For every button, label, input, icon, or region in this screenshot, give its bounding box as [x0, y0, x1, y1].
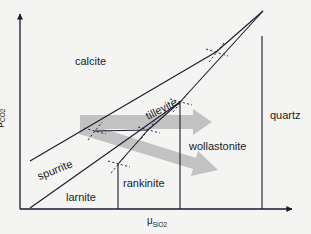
field-label-quartz: quartz	[270, 110, 301, 121]
field-label-larnite: larnite	[66, 192, 96, 203]
boundary-wollastonite-tilleyite	[180, 11, 263, 102]
dash-ip2-b	[108, 161, 130, 167]
x-axis-label-sub: SiO	[153, 221, 164, 228]
y-axis-label-sub2: 2	[0, 109, 6, 113]
field-label-rankinite: rankinite	[123, 178, 165, 189]
y-axis-label: μCO2	[0, 109, 7, 128]
phase-diagram-figure: calcite tilleyite spurrite larnite ranki…	[0, 0, 311, 234]
x-axis-label-sub2: 2	[164, 221, 168, 228]
x-axis-label: μSiO2	[147, 216, 167, 229]
y-axis-label-mu: μ	[0, 122, 4, 128]
field-label-calcite: calcite	[75, 56, 106, 67]
y-axis-label-sub: CO	[0, 112, 6, 122]
dash-ip5-a	[209, 43, 224, 62]
field-label-wollastonite: wollastonite	[189, 141, 246, 152]
boundary-calcite-quartz	[216, 11, 263, 52]
